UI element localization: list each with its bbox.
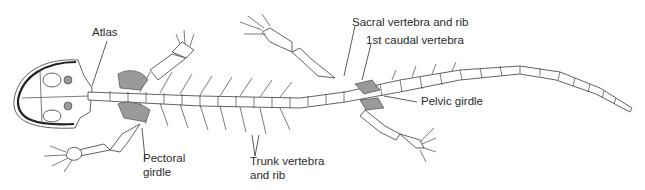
pelvic-leader: [384, 96, 417, 102]
skull: [14, 60, 92, 128]
label-trunk-vertebra-2: and rib: [250, 169, 285, 182]
sacral-leader: [344, 26, 355, 76]
label-atlas: Atlas: [92, 26, 118, 39]
salamander-skeleton-diagram: Atlas Pectoral girdle Trunk vertebra and…: [0, 0, 645, 190]
caudal-leader: [362, 44, 371, 80]
label-pelvic-girdle: Pelvic girdle: [421, 95, 483, 108]
label-pectoral-girdle-1: Pectoral: [143, 152, 185, 165]
label-pectoral-girdle-2: girdle: [143, 166, 171, 179]
trunk-leader: [252, 135, 259, 156]
label-trunk-vertebra-1: Trunk vertebra: [250, 155, 324, 168]
label-first-caudal-vertebra: 1st caudal vertebra: [366, 34, 464, 47]
atlas-leader: [92, 41, 107, 86]
label-sacral-vertebra: Sacral vertebra and rib: [352, 16, 468, 29]
vertebral-column: [88, 62, 632, 134]
